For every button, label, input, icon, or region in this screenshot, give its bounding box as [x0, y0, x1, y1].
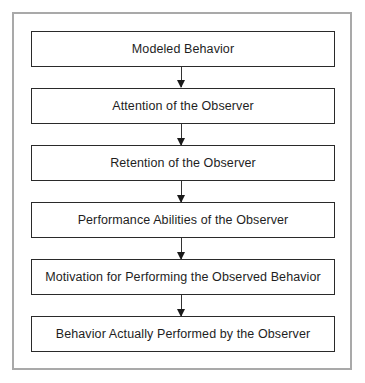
- step-retention: Retention of the Observer: [31, 145, 335, 181]
- step-label: Retention of the Observer: [110, 156, 256, 170]
- step-behavior-performed: Behavior Actually Performed by the Obser…: [31, 316, 335, 352]
- step-label: Motivation for Performing the Observed B…: [45, 270, 321, 284]
- step-label: Behavior Actually Performed by the Obser…: [56, 327, 310, 341]
- arrow-down-icon: [181, 181, 182, 202]
- step-modeled-behavior: Modeled Behavior: [31, 31, 335, 67]
- step-performance-abilities: Performance Abilities of the Observer: [31, 202, 335, 238]
- arrow-down-icon: [181, 124, 182, 145]
- arrow-down-icon: [181, 67, 182, 87]
- step-label: Attention of the Observer: [112, 99, 253, 113]
- step-attention: Attention of the Observer: [31, 88, 335, 124]
- step-motivation: Motivation for Performing the Observed B…: [31, 259, 335, 295]
- step-label: Modeled Behavior: [132, 42, 234, 56]
- arrow-down-icon: [181, 238, 182, 259]
- step-label: Performance Abilities of the Observer: [78, 213, 289, 227]
- arrow-down-icon: [181, 295, 182, 316]
